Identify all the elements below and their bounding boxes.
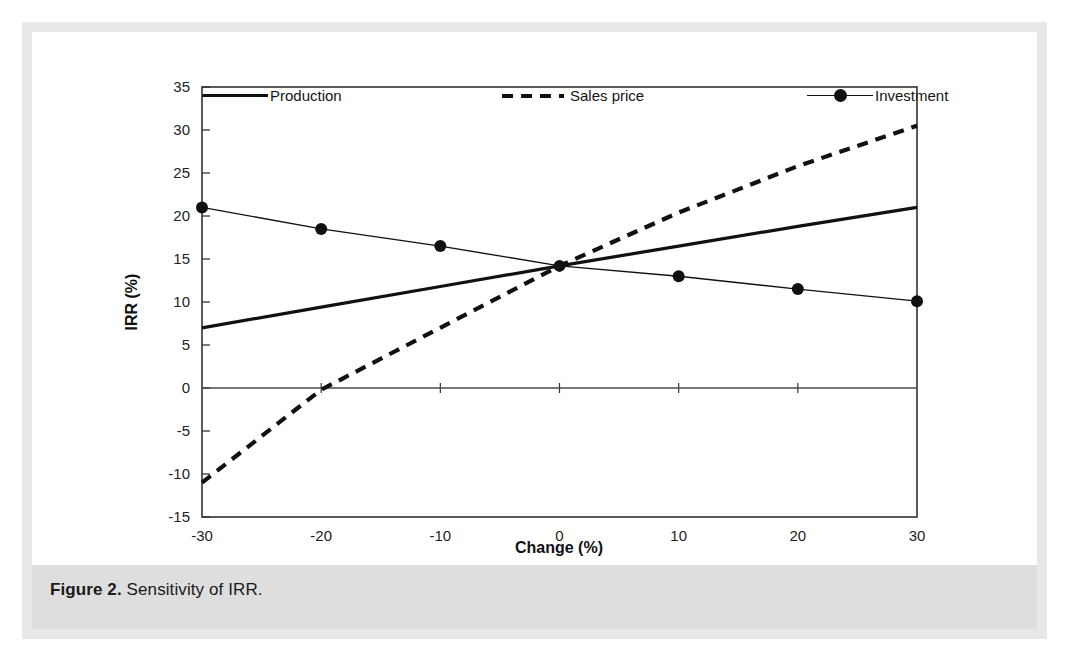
y-tick-label: 10 (173, 293, 190, 310)
y-tick-label: 35 (173, 78, 190, 95)
y-tick-label: 30 (173, 121, 190, 138)
figure-label: Figure 2. (50, 580, 122, 599)
figure-caption: Figure 2. Sensitivity of IRR. (50, 580, 263, 600)
y-tick-label: 25 (173, 164, 190, 181)
series-marker-investment (554, 260, 566, 272)
x-tick-label: -10 (429, 527, 451, 544)
x-tick-label: 10 (670, 527, 687, 544)
y-tick-label: -15 (168, 508, 190, 525)
y-tick-label: 0 (182, 379, 190, 396)
series-line-investment (202, 207, 917, 301)
series-line-sales-price (202, 126, 917, 483)
figure-caption-text: Sensitivity of IRR. (127, 580, 263, 599)
series-marker-investment (792, 283, 804, 295)
x-tick-label: -30 (191, 527, 213, 544)
y-tick-label: -5 (177, 422, 190, 439)
sensitivity-line-chart: -15-10-505101520253035 -30-20-100102030 … (32, 32, 1037, 565)
y-tick-label: 5 (182, 336, 190, 353)
plot-axes (202, 87, 917, 517)
figure-page: Production Sales price Investment -15-10 (0, 0, 1069, 661)
series-marker-investment (911, 295, 923, 307)
x-tick-label: 30 (909, 527, 926, 544)
plot-card: Production Sales price Investment -15-10 (32, 32, 1037, 565)
y-tick-label: 20 (173, 207, 190, 224)
series-marker-investment (434, 240, 446, 252)
data-series-group (202, 126, 917, 483)
series-marker-investment (673, 270, 685, 282)
x-axis-title: Change (%) (515, 539, 603, 556)
plot-frame (202, 87, 917, 517)
y-tick-label: -10 (168, 465, 190, 482)
series-marker-investment (315, 223, 327, 235)
y-axis-title: IRR (%) (123, 274, 140, 331)
series-marker-investment (196, 201, 208, 213)
x-tick-label: 20 (789, 527, 806, 544)
y-axis-ticks: -15-10-505101520253035 (168, 78, 210, 525)
x-tick-label: -20 (310, 527, 332, 544)
y-tick-label: 15 (173, 250, 190, 267)
